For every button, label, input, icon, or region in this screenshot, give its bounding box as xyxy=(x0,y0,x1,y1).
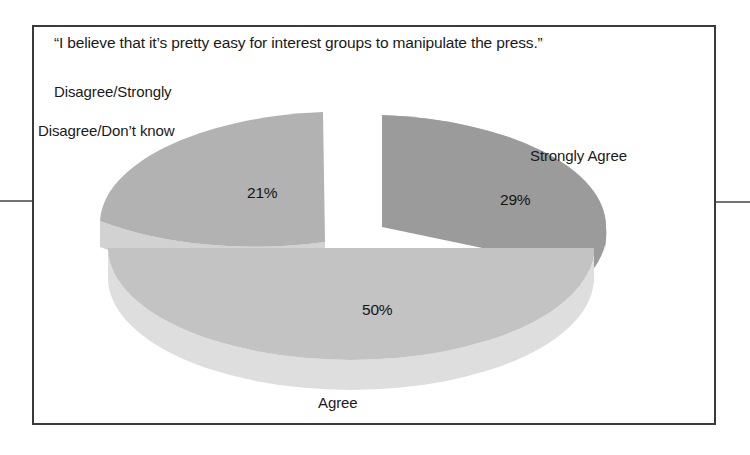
category-label-disagree: Disagree/Strongly Disagree/Don’t know xyxy=(38,62,175,160)
category-label-disagree-line1: Disagree/Strongly xyxy=(38,82,175,102)
slice-label-strongly-agree-pct: 29% xyxy=(500,191,530,209)
slice-label-disagree-pct: 21% xyxy=(247,184,277,202)
slice-label-agree-pct: 50% xyxy=(362,301,392,319)
category-label-agree: Agree xyxy=(318,393,358,413)
page-rule-left xyxy=(0,200,36,202)
category-label-strongly-agree: Strongly Agree xyxy=(530,146,627,166)
slice-strongly-agree-top xyxy=(382,115,606,227)
category-label-disagree-line2: Disagree/Don’t know xyxy=(38,121,175,141)
page-rule-right xyxy=(714,201,750,203)
chart-title-quote: “I believe that it’s pretty easy for int… xyxy=(54,33,694,52)
